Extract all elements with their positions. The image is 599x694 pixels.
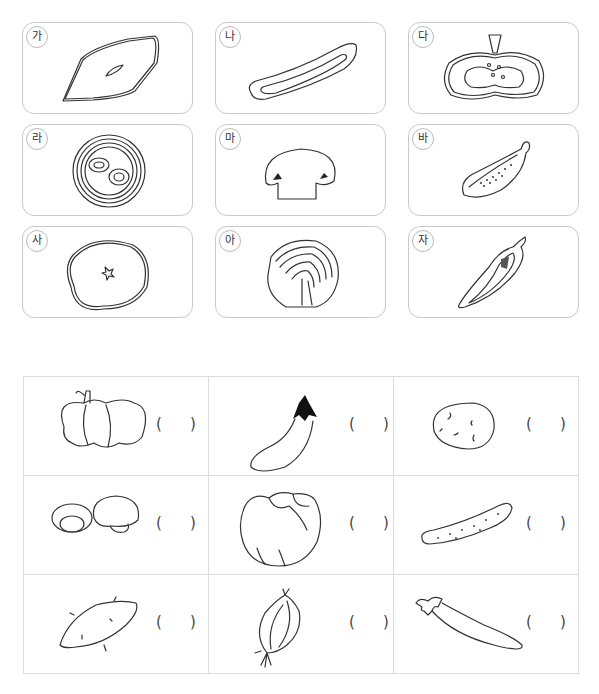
cell-mushrooms: ( ) [24, 476, 209, 575]
pepper-cross-section-icon [409, 227, 580, 319]
card-na[interactable]: 나 [215, 22, 386, 114]
cabbage-icon [209, 476, 394, 575]
card-ma[interactable]: 마 [215, 124, 386, 216]
card-ba[interactable]: 바 [408, 124, 579, 216]
card-sa[interactable]: 사 [22, 226, 193, 318]
table-row: ( ) ( ) ( ) [24, 377, 579, 476]
pumpkin-cross-section-icon [409, 23, 580, 115]
cell-eggplant: ( ) [209, 377, 394, 476]
card-a[interactable]: 아 [215, 226, 386, 318]
card-ga[interactable]: 가 [22, 22, 193, 114]
cell-sweet-potato: ( ) [24, 575, 209, 674]
chili-pepper-icon [394, 575, 579, 674]
sweet-potato-cross-section-icon [23, 23, 194, 115]
cell-cabbage: ( ) [209, 476, 394, 575]
onion-icon [209, 575, 394, 674]
cucumber-cross-section-icon [216, 23, 387, 115]
mushroom-cross-section-icon [216, 125, 387, 217]
cell-onion: ( ) [209, 575, 394, 674]
onion-cross-section-icon [23, 125, 194, 217]
potato-icon [394, 377, 579, 476]
mushrooms-icon [24, 476, 209, 575]
cell-cucumber: ( ) [394, 476, 579, 575]
cucumber-icon [394, 476, 579, 575]
pumpkin-icon [24, 377, 209, 476]
cell-chili-pepper: ( ) [394, 575, 579, 674]
matching-table: ( ) ( ) ( ) [23, 376, 579, 674]
table-row: ( ) ( ) ( ) [24, 476, 579, 575]
cell-potato: ( ) [394, 377, 579, 476]
cell-pumpkin: ( ) [24, 377, 209, 476]
eggplant-cross-section-icon [409, 125, 580, 217]
cabbage-cross-section-icon [216, 227, 387, 319]
card-ra[interactable]: 라 [22, 124, 193, 216]
card-ja[interactable]: 자 [408, 226, 579, 318]
eggplant-icon [209, 377, 394, 476]
sweet-potato-icon [24, 575, 209, 674]
table-row: ( ) ( ) ( ) [24, 575, 579, 674]
potato-cross-section-icon [23, 227, 194, 319]
card-da[interactable]: 다 [408, 22, 579, 114]
